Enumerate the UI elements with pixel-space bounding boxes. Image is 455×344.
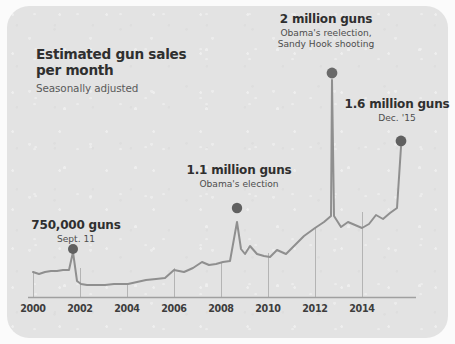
x-tick-label-2010: 2010 [255,303,281,314]
annotation-sept-11: 750,000 guns Sept. 11 [14,218,138,245]
page-title: Estimated gun sales per month [36,47,226,78]
annotation-sandy-hook-value: 2 million guns [253,12,399,26]
x-tick-label-2008: 2008 [208,303,234,314]
annotation-obama-election-value: 1.1 million guns [178,163,300,177]
marker-sept-11 [68,244,78,254]
chart-title-line-2: per month [36,62,114,78]
x-tick-label-2004: 2004 [114,303,140,314]
annotation-sept-11-value: 750,000 guns [14,218,138,232]
annotation-dec-2015: 1.6 million guns Dec. '15 [339,97,455,124]
marker-sandy-hook [327,68,338,79]
x-tick-label-2006: 2006 [161,303,187,314]
annotation-sandy-hook: 2 million guns Obama's reelection, Sandy… [253,12,399,50]
x-tick-label-2014: 2014 [349,303,375,314]
chart-subtitle: Seasonally adjusted [36,82,226,94]
x-tick-label-2000: 2000 [20,303,46,314]
annotation-sandy-hook-note: Obama's reelection, Sandy Hook shooting [253,28,399,50]
annotation-obama-election: 1.1 million guns Obama's election [178,163,300,190]
title-block: Estimated gun sales per month Seasonally… [36,47,226,94]
marker-obama-election [232,203,242,213]
chart-title-line-1: Estimated gun sales [36,46,186,62]
x-tick-label-2002: 2002 [67,303,93,314]
annotation-dec-2015-note: Dec. '15 [339,113,455,124]
x-tick-label-2012: 2012 [302,303,328,314]
annotation-dec-2015-value: 1.6 million guns [339,97,455,111]
annotation-sandy-hook-note-line-1: Obama's reelection, [280,28,371,38]
chart-page: Estimated gun sales per month Seasonally… [0,0,455,344]
annotation-sandy-hook-note-line-2: Sandy Hook shooting [278,39,375,49]
annotation-obama-election-note: Obama's election [178,179,300,190]
annotation-sept-11-note: Sept. 11 [14,234,138,245]
marker-dec-2015 [396,136,407,147]
